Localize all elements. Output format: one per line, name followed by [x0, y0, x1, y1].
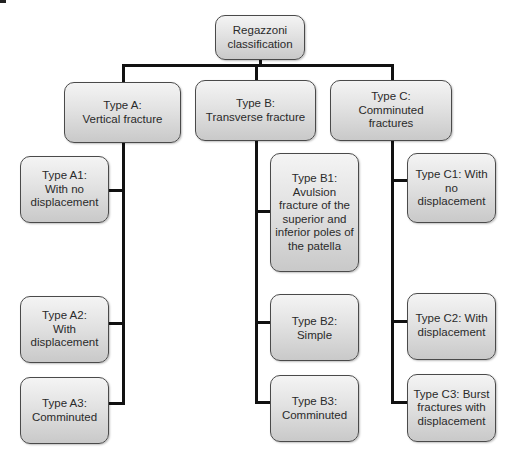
node-type-c3-label: Type C3: Burst fractures with displaceme…: [413, 388, 489, 429]
node-type-c: Type C: Comminuted fractures: [330, 80, 452, 141]
connector-type-b2: [255, 321, 271, 324]
node-type-a3: Type A3: Comminuted: [20, 377, 109, 444]
connector-type-a-vertical: [122, 142, 125, 405]
node-type-c-label: Type C: Comminuted fractures: [335, 90, 447, 131]
node-type-c1: Type C1: With no displacement: [407, 153, 496, 223]
connector-type-c2: [391, 320, 408, 323]
connector-to-type-c: [391, 64, 394, 80]
node-type-c2: Type C2: With displacement: [407, 293, 496, 360]
node-type-a1-label: Type A1: With no displacement: [31, 169, 99, 210]
connector-type-b3: [255, 401, 271, 404]
node-root-label: Regazzoni classification: [227, 24, 292, 51]
connector-level1-horizontal: [122, 64, 394, 67]
connector-type-c1: [391, 179, 408, 182]
node-type-a1: Type A1: With no displacement: [20, 156, 109, 223]
connector-type-b-vertical: [255, 140, 258, 404]
connector-type-a3: [108, 402, 124, 405]
node-type-b3: Type B3: Comminuted: [270, 375, 359, 442]
node-type-a2-label: Type A2: With displacement: [31, 309, 99, 350]
connector-to-type-b: [255, 64, 258, 80]
connector-type-a2: [108, 322, 124, 325]
corner-mark: [0, 0, 6, 3]
node-type-b1-label: Type B1: Avulsion fracture of the superi…: [275, 172, 354, 253]
node-type-b: Type B: Transverse fracture: [195, 80, 316, 141]
node-type-b-label: Type B: Transverse fracture: [206, 97, 305, 124]
node-type-a2: Type A2: With displacement: [20, 296, 109, 363]
connector-type-a1: [108, 189, 124, 192]
node-type-b2: Type B2: Simple: [270, 294, 359, 361]
node-type-a3-label: Type A3: Comminuted: [32, 397, 97, 424]
connector-to-type-a: [122, 64, 125, 82]
node-type-a: Type A: Vertical fracture: [64, 82, 181, 143]
node-type-a-label: Type A: Vertical fracture: [83, 99, 163, 126]
connector-type-b1: [255, 210, 271, 213]
node-type-c3: Type C3: Burst fractures with displaceme…: [407, 374, 496, 442]
node-type-b1: Type B1: Avulsion fracture of the superi…: [270, 153, 359, 272]
connector-type-c3: [391, 401, 408, 404]
node-root: Regazzoni classification: [215, 15, 305, 60]
node-type-c1-label: Type C1: With no displacement: [412, 168, 491, 209]
node-type-b2-label: Type B2: Simple: [275, 315, 354, 342]
node-type-b3-label: Type B3: Comminuted: [282, 395, 347, 422]
node-type-c2-label: Type C2: With displacement: [415, 312, 487, 339]
